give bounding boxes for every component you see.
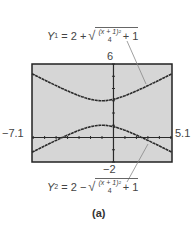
y2-radicand: (x + 1)² 4 + 1 bbox=[95, 178, 138, 195]
y1-op: = 2 + bbox=[61, 30, 86, 42]
y2-numerator: (x + 1)² bbox=[98, 179, 120, 187]
y1-tail: + 1 bbox=[123, 30, 139, 42]
y2-denominator: 4 bbox=[108, 187, 112, 195]
figure-caption: (a) bbox=[92, 207, 105, 219]
graph-screen bbox=[32, 64, 172, 162]
y2-fraction: (x + 1)² 4 bbox=[98, 179, 120, 195]
y2-op: = 2 − bbox=[61, 181, 86, 193]
ymax-label: 6 bbox=[107, 50, 113, 62]
y1-equation: Y1 = 2 + √ (x + 1)² 4 + 1 bbox=[47, 27, 138, 44]
y1-numerator: (x + 1)² bbox=[98, 28, 120, 36]
y2-lhs: Y bbox=[47, 181, 54, 193]
ymin-label: −2 bbox=[103, 163, 116, 175]
xmin-label: −7.1 bbox=[2, 127, 24, 139]
y1-fraction: (x + 1)² 4 bbox=[98, 28, 120, 44]
y2-sub: 2 bbox=[54, 183, 58, 190]
y1-radicand: (x + 1)² 4 + 1 bbox=[95, 27, 138, 44]
sqrt-icon: √ bbox=[88, 28, 95, 43]
y1-lhs: Y bbox=[47, 30, 54, 42]
y1-denominator: 4 bbox=[108, 36, 112, 44]
y2-equation: Y2 = 2 − √ (x + 1)² 4 + 1 bbox=[47, 178, 138, 195]
y2-tail: + 1 bbox=[123, 181, 139, 193]
xmax-label: 5.1 bbox=[175, 127, 190, 139]
sqrt-icon: √ bbox=[88, 179, 95, 194]
y1-sub: 1 bbox=[54, 32, 58, 39]
